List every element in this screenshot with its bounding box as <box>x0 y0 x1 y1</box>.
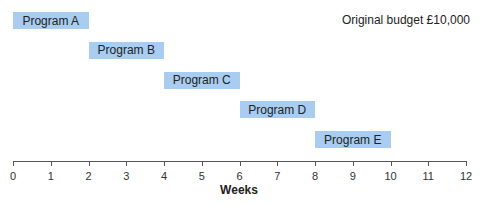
task-bar: Program A <box>13 12 89 29</box>
figure-caption-cropped <box>12 199 252 206</box>
x-tick-label: 8 <box>312 170 318 182</box>
x-tick-label: 9 <box>350 170 356 182</box>
x-tick <box>89 161 90 166</box>
x-tick <box>391 161 392 166</box>
x-tick-label: 7 <box>274 170 280 182</box>
x-tick <box>126 161 127 166</box>
x-tick <box>353 161 354 166</box>
task-bar: Program C <box>164 72 240 89</box>
x-tick <box>164 161 165 166</box>
task-bar: Program D <box>240 101 316 118</box>
x-tick <box>202 161 203 166</box>
x-tick-label: 5 <box>199 170 205 182</box>
x-tick <box>240 161 241 166</box>
x-tick-label: 3 <box>123 170 129 182</box>
x-tick <box>277 161 278 166</box>
budget-annotation: Original budget £10,000 <box>342 13 470 27</box>
x-tick-label: 6 <box>236 170 242 182</box>
x-tick-label: 4 <box>161 170 167 182</box>
x-tick <box>428 161 429 166</box>
x-tick <box>466 161 467 166</box>
x-tick-label: 12 <box>460 170 472 182</box>
x-tick-label: 10 <box>384 170 396 182</box>
x-tick-label: 11 <box>423 170 434 182</box>
task-bar: Program E <box>315 131 391 148</box>
x-tick <box>13 161 14 166</box>
x-tick-label: 0 <box>10 170 16 182</box>
x-tick <box>315 161 316 166</box>
x-axis-label: Weeks <box>220 183 258 197</box>
x-tick <box>51 161 52 166</box>
x-tick-label: 2 <box>85 170 91 182</box>
x-tick-label: 1 <box>48 170 54 182</box>
task-bar: Program B <box>89 42 165 59</box>
